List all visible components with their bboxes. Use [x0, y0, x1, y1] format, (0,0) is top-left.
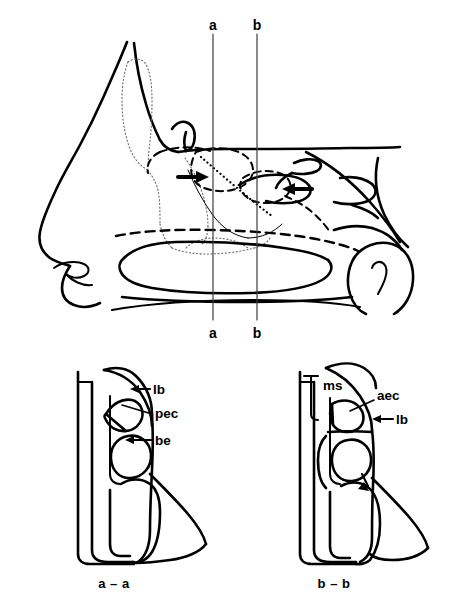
annotation-a-be-label: be: [155, 433, 171, 448]
frontal-sinus-dotted: [122, 59, 152, 170]
section-b-caption: b – b: [318, 576, 351, 591]
annotation-b-ms-label: ms: [323, 378, 343, 393]
figure-root: lb pec be a – a: [0, 0, 462, 614]
uncinate-dotted-contour: [148, 158, 270, 254]
annotation-a-pec-label: pec: [155, 406, 179, 421]
section-line-a-top-label: a: [209, 17, 217, 33]
section-line-b-top-label: b: [253, 17, 262, 33]
inferior-turbinate: [120, 242, 332, 294]
section-b-lb-shelf: [328, 431, 372, 432]
anatomical-figure: lb pec be a – a: [0, 0, 462, 614]
section-b-panel: ms aec lb b – b: [300, 364, 428, 592]
section-b-infundibulum: [360, 430, 374, 562]
section-line-b-bottom-label: b: [253, 325, 262, 341]
section-b-maxillary-sinus: [341, 483, 380, 564]
facial-profile-outline: [39, 42, 127, 307]
annotation-a-lb-label: lb: [153, 382, 165, 397]
section-a-turbinate-stem: [105, 414, 127, 431]
nasal-roof: [172, 122, 400, 152]
posterior-choana: [334, 177, 378, 218]
section-line-a-bottom-label: a: [209, 325, 217, 341]
annotation-b-lb-label: lb: [396, 412, 408, 427]
section-b-maxillary-wing-lower: [370, 548, 428, 560]
section-b-aec: [332, 401, 363, 433]
annotation-b-lb: lb: [372, 412, 408, 427]
section-a-caption: a – a: [98, 576, 130, 591]
palate-floor-lines: [112, 297, 360, 310]
section-a-septum-inner: [92, 382, 134, 562]
hard-palate-dashed: [116, 230, 358, 251]
section-a-maxillary-sinus: [121, 480, 160, 563]
probe-path-dotted: [201, 157, 272, 216]
nasal-dorsum-inner: [134, 43, 178, 152]
sagittal-panel: [39, 34, 413, 320]
section-a-sinus-inner: [110, 490, 130, 556]
eustachian-tube-region: [348, 243, 413, 314]
section-b-turbinate-body: [332, 440, 371, 481]
section-a-panel: lb pec be a – a: [78, 368, 206, 591]
section-b-sinus-inner: [330, 492, 350, 558]
annotation-b-aec-label: aec: [377, 388, 400, 403]
section-b-turbinate-shelf: [318, 436, 326, 488]
